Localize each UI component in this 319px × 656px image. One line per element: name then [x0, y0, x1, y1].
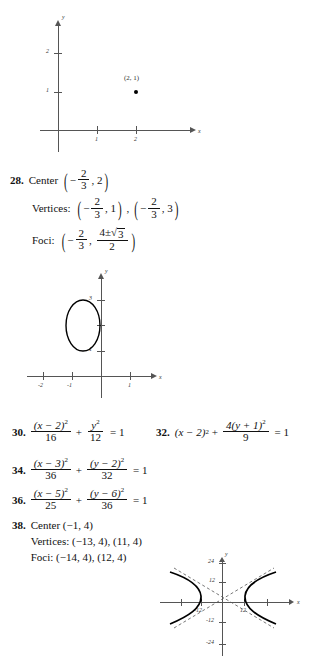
answer-34-fraction-1: (x − 3)2 36 [31, 458, 71, 481]
ellipse-graph-problem-28: y x 3 1 -2 -1 1 [25, 268, 200, 408]
x-axis [40, 130, 192, 131]
vertex-1-coords: ( − 2 3 , 1 ) [75, 196, 123, 219]
right-paren: ) [132, 228, 136, 252]
num-text: (x − 5) [34, 487, 65, 499]
answer-28-vertices-line: Vertices: ( − 2 3 , 1 ) , ( − 2 3 [32, 196, 310, 219]
answer-32-denominator: 9 [240, 432, 252, 443]
num-exponent: 2 [121, 486, 124, 493]
equals-one: = 1 [133, 494, 147, 506]
left-paren: ( [62, 228, 66, 252]
num-text: (y − 6) [90, 487, 121, 499]
answer-30-line: 30. (x − 2)2 16 + y2 12 = 1 [12, 420, 124, 443]
equals-one: = 1 [110, 426, 124, 438]
hyperbola-right-branch [245, 572, 276, 624]
comma: , [89, 234, 95, 246]
plus-operator: + [212, 426, 218, 438]
num-text: (x − 3) [34, 457, 65, 469]
answer-30-denominator-2: 12 [87, 432, 104, 443]
hyperbola-curves [152, 556, 319, 656]
radicand: 3 [117, 228, 125, 240]
center-x-denominator: 3 [78, 180, 90, 191]
left-paren: ( [77, 196, 81, 220]
point-label: (2, 1) [124, 74, 139, 82]
vertex-2-coords: ( − 2 3 , 3 ) [132, 196, 180, 219]
foci-coords: ( − 2 3 , 4±√3 2 ) [60, 227, 138, 252]
answer-30: 30. (x − 2)2 16 + y2 12 = 1 [12, 420, 124, 445]
answer-30-denominator-1: 16 [42, 432, 59, 443]
vertex-2-y: 3 [167, 202, 173, 214]
plus-operator: + [76, 426, 82, 438]
vertex-1-x-fraction: 2 3 [91, 196, 103, 219]
y-tick-label-2: 2 [46, 48, 49, 54]
foci-y-denominator: 2 [106, 241, 118, 252]
foci-label: Foci: [32, 234, 55, 246]
answer-34-denominator-2: 32 [99, 470, 116, 481]
lead-text: (x − 2) [175, 426, 206, 438]
vertex-1-x-denominator: 3 [91, 209, 103, 220]
answer-34-line: 34. (x − 3)2 36 + (y − 2)2 32 = 1 [12, 458, 148, 481]
vertices-label: Vertices: [32, 202, 70, 214]
equals-one: = 1 [275, 426, 289, 438]
left-paren: ( [64, 168, 68, 192]
hyperbola-graph-problem-38: y x 24 12 -12 -24 -12 12 [152, 556, 319, 656]
num-exponent: 2 [262, 418, 265, 425]
y-axis [58, 22, 59, 152]
equals-one: = 1 [133, 464, 147, 476]
vertex-2-x-fraction: 2 3 [148, 196, 160, 219]
asymptote-lines [174, 568, 274, 628]
answer-page: y x 2 1 1 2 (2, 1) 28. Center ( − 2 3 [0, 0, 319, 656]
x-axis-label: x [198, 128, 201, 134]
answer-32-number: 32. [156, 426, 170, 438]
answer-34-fraction-2: (y − 2)2 32 [87, 458, 127, 481]
foci-y-numerator: 4±√3 [97, 227, 128, 241]
num-text: 4(y + 1) [226, 419, 262, 431]
answer-38-text-block: Center (−1, 4) Vertices: (−13, 4), (11, … [31, 518, 142, 566]
answer-38-vertices-line: Vertices: (−13, 4), (11, 4) [31, 534, 142, 550]
center-coords: ( − 2 3 , 2 ) [62, 168, 110, 191]
minus-sign: − [70, 174, 76, 186]
answer-36-denominator-2: 36 [99, 500, 116, 511]
foci-y-fraction: 4±√3 2 [97, 227, 128, 252]
answer-32: 32. (x − 2)2 + 4(y + 1)2 9 = 1 [156, 420, 289, 445]
vertex-2-x-denominator: 3 [148, 209, 160, 220]
answer-28-center-line: 28. Center ( − 2 3 , 2 ) [10, 168, 310, 191]
ellipse-curve [25, 268, 200, 408]
num-exponent: 2 [121, 456, 124, 463]
num-exponent: 2 [64, 486, 67, 493]
y-axis-arrow [55, 20, 61, 26]
answer-32-lead-term: (x − 2)2 [175, 426, 209, 438]
foci-x-denominator: 3 [76, 240, 88, 251]
minus-sign: − [83, 202, 89, 214]
answer-30-number: 30. [12, 426, 26, 438]
x-tick-label-1: 1 [95, 136, 98, 142]
y-tick-2 [54, 53, 62, 54]
answer-32-fraction: 4(y + 1)2 9 [223, 420, 269, 443]
y-axis-label: y [62, 14, 65, 20]
plus-operator: + [76, 494, 82, 506]
plotted-point [134, 90, 138, 94]
answer-36: 36. (x − 5)2 25 + (y − 6)2 36 = 1 [12, 488, 148, 513]
y-tick-label-1: 1 [46, 87, 49, 93]
num-exponent: 2 [96, 418, 99, 425]
center-x-fraction: 2 3 [78, 168, 90, 191]
vertex-1-x-numerator: 2 [91, 196, 103, 208]
answer-38-center-line: Center (−1, 4) [31, 518, 142, 534]
answer-36-fraction-1: (x − 5)2 25 [31, 488, 71, 511]
answer-36-number: 36. [12, 494, 26, 506]
hyperbola-left-branch [170, 572, 201, 624]
minus-sign: − [140, 202, 146, 214]
left-paren: ( [134, 196, 138, 220]
right-paren: ) [118, 196, 122, 220]
x-tick-label-2: 2 [134, 136, 137, 142]
num-text: (y − 2) [90, 457, 121, 469]
answer-36-denominator-1: 25 [42, 500, 59, 511]
x-tick-1 [97, 126, 98, 134]
vertex-2-x-numerator: 2 [148, 196, 160, 208]
answer-38-foci-line: Foci: (−14, 4), (12, 4) [31, 550, 142, 566]
num-text: (x − 2) [34, 419, 65, 431]
answer-28-foci-line: Foci: ( − 2 3 , 4±√3 2 ) [32, 227, 310, 252]
square-root: √3 [111, 227, 125, 240]
answer-36-line: 36. (x − 5)2 25 + (y − 6)2 36 = 1 [12, 488, 148, 511]
foci-x-fraction: 2 3 [76, 228, 88, 251]
right-paren: ) [104, 168, 108, 192]
